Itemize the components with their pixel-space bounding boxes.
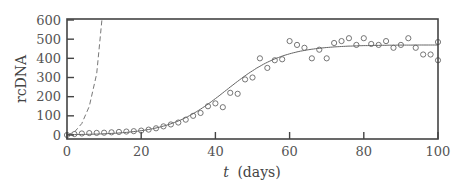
x-axis-unit: (days) (237, 164, 280, 180)
y-axis-title: rcDNA (13, 54, 29, 103)
data-point (339, 38, 344, 43)
data-point (198, 110, 203, 115)
data-point (324, 56, 329, 61)
data-point (109, 130, 114, 135)
data-point (94, 130, 99, 135)
data-point (242, 77, 247, 82)
data-point (361, 36, 366, 41)
fit-curve (67, 45, 438, 135)
data-point (287, 38, 292, 43)
y-tick-label: 300 (36, 70, 61, 85)
y-tick-label: 100 (36, 108, 61, 123)
data-point (228, 90, 233, 95)
y-tick-label: 400 (36, 51, 61, 66)
data-point (250, 75, 255, 80)
data-point (116, 129, 121, 134)
y-tick-label: 500 (36, 32, 61, 47)
data-point (213, 101, 218, 106)
data-point (79, 131, 84, 136)
x-tick-label: 100 (426, 144, 451, 159)
data-point (354, 42, 359, 47)
data-point (383, 38, 388, 43)
x-tick-label: 40 (207, 144, 224, 159)
y-tick-label: 600 (36, 13, 61, 28)
x-axis-variable: t (223, 164, 229, 180)
data-point (280, 57, 285, 62)
x-tick-label: 20 (133, 144, 150, 159)
data-point (332, 40, 337, 45)
data-point (413, 45, 418, 50)
data-point (346, 36, 351, 41)
data-point (87, 130, 92, 135)
y-tick-label: 200 (36, 89, 61, 104)
x-tick-label: 0 (63, 144, 71, 159)
data-point (406, 36, 411, 41)
data-point (428, 52, 433, 57)
axes: 0100200300400500600020406080100 (36, 13, 450, 160)
data-point (124, 129, 129, 134)
chart: 0100200300400500600020406080100 rcDNA t … (0, 0, 467, 188)
x-tick-label: 80 (356, 144, 373, 159)
data-point (309, 56, 314, 61)
data-point (102, 130, 107, 135)
x-axis-title: t (days) (223, 164, 280, 180)
data-point (235, 91, 240, 96)
data-point (302, 45, 307, 50)
data-point (265, 65, 270, 70)
data-point (220, 105, 225, 110)
data-point (391, 45, 396, 50)
plot-frame (67, 19, 438, 139)
x-tick-label: 60 (281, 144, 298, 159)
data-point (257, 56, 262, 61)
y-tick-label: 0 (53, 128, 61, 143)
data-point (421, 52, 426, 57)
plot-area (64, 20, 440, 138)
data-point (294, 42, 299, 47)
